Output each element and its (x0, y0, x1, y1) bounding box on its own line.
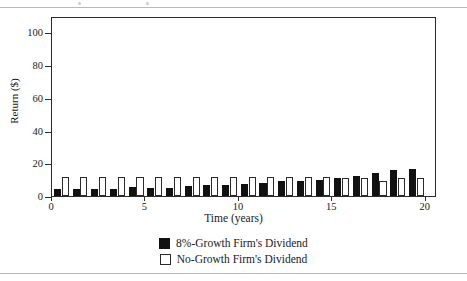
bar-group (351, 18, 370, 196)
figure-container: Return ($) 020406080100 05101520 Time (y… (0, 0, 467, 281)
bar-no-growth-dividend (136, 177, 143, 196)
bar-group (276, 18, 295, 196)
bar-no-growth-dividend (230, 177, 237, 196)
top-divider-rule (0, 7, 467, 8)
bar-no-growth-dividend (174, 177, 181, 196)
bar-growth-dividend (241, 184, 248, 196)
bar-group (202, 18, 221, 196)
bar-group (258, 18, 277, 196)
bar-growth-dividend (54, 189, 61, 196)
bar-group (370, 18, 389, 196)
legend-item: 8%-Growth Firm's Dividend (159, 236, 308, 250)
bar-group (52, 18, 71, 196)
bar-growth-dividend (372, 173, 379, 196)
bar-no-growth-dividend (99, 177, 106, 196)
bar-growth-dividend (129, 187, 136, 196)
legend-swatch-white-icon (160, 254, 171, 265)
bar-growth-dividend (203, 185, 210, 196)
bar-group (220, 18, 239, 196)
bar-group (388, 18, 407, 196)
x-axis-title: Time (years) (0, 212, 467, 224)
bar-no-growth-dividend (62, 177, 69, 196)
bar-no-growth-dividend (249, 177, 256, 196)
bar-group (295, 18, 314, 196)
bar-no-growth-dividend (286, 177, 293, 196)
legend-item: No-Growth Firm's Dividend (160, 252, 307, 266)
bar-growth-dividend (185, 186, 192, 196)
bar-no-growth-dividend (155, 177, 162, 196)
bar-growth-dividend (73, 189, 80, 196)
bar-no-growth-dividend (267, 177, 274, 196)
legend-item-label: No-Growth Firm's Dividend (177, 253, 307, 265)
bar-group (89, 18, 108, 196)
y-axis-tick-label: 100 (27, 28, 43, 38)
bar-group (407, 18, 426, 196)
y-axis-tick-label: 60 (33, 94, 44, 104)
y-axis-title: Return ($) (8, 61, 20, 141)
bar-group (164, 18, 183, 196)
bar-group (239, 18, 258, 196)
y-axis: Return ($) 020406080100 (0, 17, 51, 198)
bar-group (127, 18, 146, 196)
bar-group (145, 18, 164, 196)
bar-no-growth-dividend (398, 178, 405, 196)
y-axis-tick-label: 40 (33, 127, 44, 137)
bar-growth-dividend (390, 170, 397, 196)
bottom-divider-rule (0, 273, 467, 274)
top-faint-marks (50, 0, 220, 7)
bar-group (314, 18, 333, 196)
legend-swatch-black-icon (159, 238, 170, 249)
bar-growth-dividend (316, 180, 323, 196)
bar-no-growth-dividend (379, 181, 386, 196)
bar-no-growth-dividend (211, 177, 218, 196)
bar-growth-dividend (297, 181, 304, 196)
bar-no-growth-dividend (417, 178, 424, 196)
y-axis-tick-label: 80 (33, 61, 44, 71)
bar-no-growth-dividend (323, 177, 330, 196)
bar-growth-dividend (259, 183, 266, 196)
bar-growth-dividend (110, 189, 117, 196)
bar-no-growth-dividend (305, 177, 312, 196)
bar-group (71, 18, 90, 196)
bar-group (108, 18, 127, 196)
bar-no-growth-dividend (80, 177, 87, 196)
bar-growth-dividend (91, 189, 98, 196)
bar-group (183, 18, 202, 196)
chart-legend: 8%-Growth Firm's Dividend No-Growth Firm… (0, 236, 467, 266)
bar-no-growth-dividend (361, 178, 368, 196)
plot-area (51, 17, 436, 197)
bar-group-container (52, 18, 435, 196)
bar-growth-dividend (222, 185, 229, 196)
bar-group (332, 18, 351, 196)
bar-growth-dividend (278, 181, 285, 196)
bar-growth-dividend (353, 176, 360, 196)
legend-item-label: 8%-Growth Firm's Dividend (176, 237, 308, 249)
bar-no-growth-dividend (342, 178, 349, 196)
bar-no-growth-dividend (118, 177, 125, 196)
bar-growth-dividend (147, 188, 154, 196)
bar-no-growth-dividend (193, 177, 200, 196)
bar-growth-dividend (166, 188, 173, 196)
bar-growth-dividend (334, 178, 341, 196)
y-axis-tick-label: 20 (33, 159, 44, 169)
bar-growth-dividend (409, 169, 416, 196)
